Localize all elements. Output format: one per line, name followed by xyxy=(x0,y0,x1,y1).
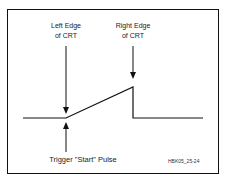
trigger-arrow-icon xyxy=(63,122,69,152)
sawtooth-waveform xyxy=(23,87,203,118)
right-edge-arrow-icon xyxy=(130,46,136,79)
figure-id: HBK05_25-24 xyxy=(168,158,199,164)
trigger-label: Trigger "Start" Pulse xyxy=(38,155,128,165)
left-edge-arrow-icon xyxy=(63,46,69,114)
waveform-diagram xyxy=(0,0,227,181)
